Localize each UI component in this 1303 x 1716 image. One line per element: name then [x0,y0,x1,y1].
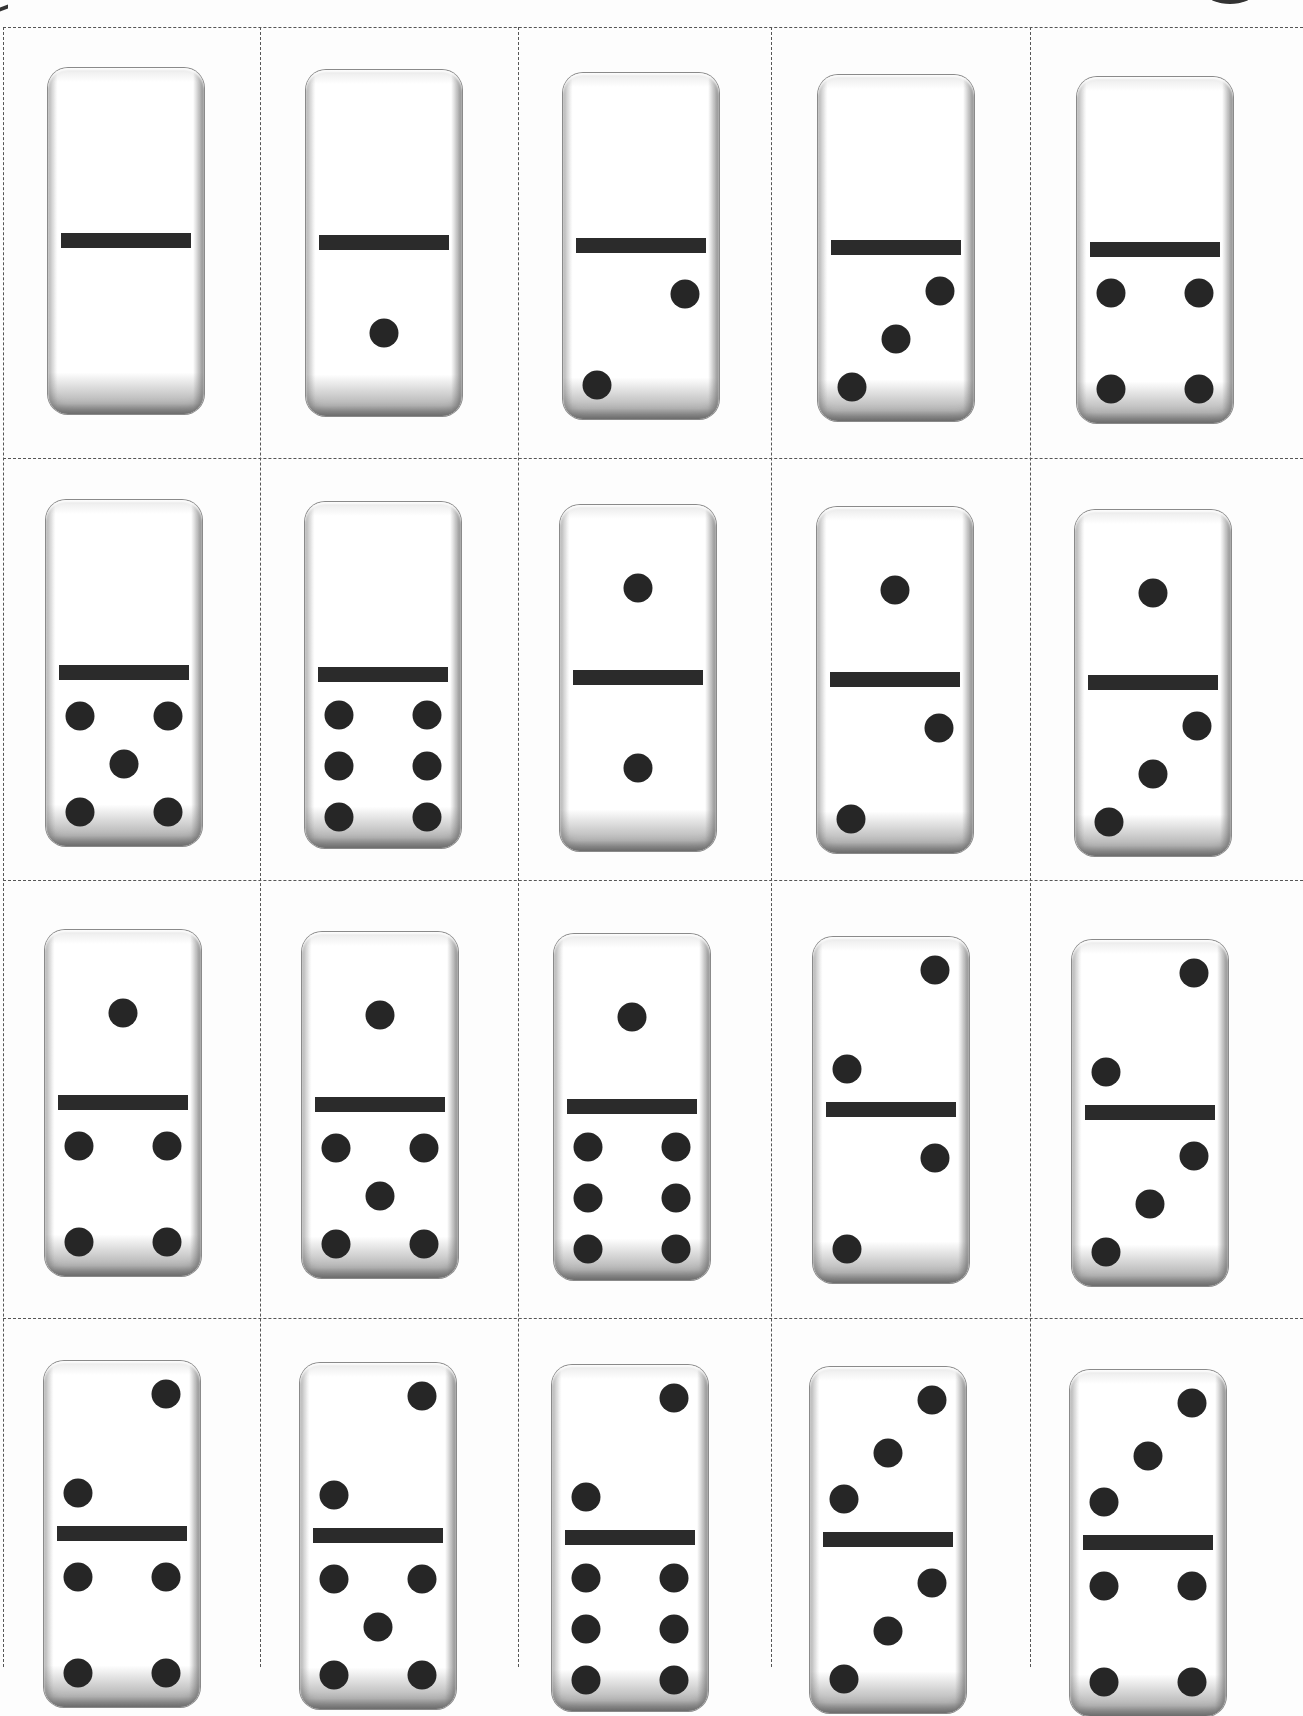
domino-tile-0-4[interactable] [1077,77,1233,423]
pip [407,1565,436,1594]
domino-tile-1-3[interactable] [1075,510,1231,856]
tile-bottom-half [813,1117,969,1282]
pip [151,1380,180,1409]
pip [1090,1488,1119,1517]
domino-tile-2-4[interactable] [44,1361,200,1707]
pip [572,1483,601,1512]
cut-line-vertical [260,27,261,1667]
pip [917,1386,946,1415]
pip [1134,1441,1163,1470]
tile-divider-bar [319,235,449,250]
domino-tile-2-6[interactable] [552,1365,708,1711]
tile-divider-bar [318,667,448,682]
domino-tile-3-4[interactable] [1070,1370,1226,1716]
domino-tile-1-1[interactable] [560,505,716,851]
pip [66,702,95,731]
pip [618,1002,647,1031]
pip [661,1133,690,1162]
pip [320,1481,349,1510]
pip [370,318,399,347]
tile-bottom-half [552,1545,708,1710]
tile-bottom-half [45,1110,201,1275]
domino-tile-2-2[interactable] [813,937,969,1283]
tile-divider-bar [1085,1105,1215,1120]
pip [64,1563,93,1592]
pip [659,1564,688,1593]
pip [1095,808,1124,837]
tile-divider-bar [826,1102,956,1117]
pip [925,277,954,306]
pip [412,701,441,730]
cut-line-vertical [1030,27,1031,1667]
cut-line-vertical [518,27,519,1667]
pip [1177,1668,1206,1697]
pip [65,1228,94,1257]
corner-blob [1208,0,1252,4]
tile-bottom-half [563,253,719,418]
tile-divider-bar [831,240,961,255]
pip [1179,959,1208,988]
pip [320,1661,349,1690]
tile-bottom-half [48,248,204,413]
pip [572,1564,601,1593]
domino-tile-2-5[interactable] [300,1363,456,1709]
tile-bottom-half [305,682,461,847]
tile-divider-bar [830,672,960,687]
domino-tile-0-5[interactable] [46,500,202,846]
pip [409,1230,438,1259]
domino-tile-0-2[interactable] [563,73,719,419]
pip [152,1132,181,1161]
tile-bottom-half [300,1543,456,1708]
domino-tile-0-3[interactable] [818,75,974,421]
pip [1179,1142,1208,1171]
pip [881,575,910,604]
tile-divider-bar [1083,1535,1213,1550]
pip [920,1144,949,1173]
pip [882,325,911,354]
tile-top-half [817,507,973,672]
tile-top-half [45,930,201,1095]
pip [151,1659,180,1688]
pip [830,1485,859,1514]
tile-bottom-half [302,1112,458,1277]
pip [412,803,441,832]
pip [661,1235,690,1264]
tile-divider-bar [823,1532,953,1547]
pip [624,573,653,602]
domino-tile-1-6[interactable] [554,934,710,1280]
tile-bottom-half [1072,1120,1228,1285]
tile-top-half [306,70,462,235]
domino-tile-0-6[interactable] [305,502,461,848]
tile-bottom-half [1070,1550,1226,1715]
domino-tile-0-0[interactable] [48,68,204,414]
pip [325,701,354,730]
pip [407,1661,436,1690]
domino-tile-1-5[interactable] [302,932,458,1278]
domino-tile-3-3[interactable] [810,1367,966,1713]
pip [1090,1572,1119,1601]
tile-bottom-half [554,1114,710,1279]
pip [659,1384,688,1413]
domino-tile-1-2[interactable] [817,507,973,853]
pip [572,1615,601,1644]
pip [409,1134,438,1163]
pip [830,1665,859,1694]
domino-tile-1-4[interactable] [45,930,201,1276]
pip [837,805,866,834]
tile-top-half [48,68,204,233]
cut-line-horizontal [3,458,1303,459]
pip [1092,1058,1121,1087]
domino-tile-2-3[interactable] [1072,940,1228,1286]
tile-divider-bar [315,1097,445,1112]
tile-divider-bar [61,233,191,248]
domino-tile-0-1[interactable] [306,70,462,416]
tile-bottom-half [46,680,202,845]
pip [1090,1668,1119,1697]
pip [320,1565,349,1594]
pip [110,750,139,779]
pip [574,1235,603,1264]
tile-top-half [1072,940,1228,1105]
pip [1139,578,1168,607]
tile-top-half [44,1361,200,1526]
pip [572,1666,601,1695]
